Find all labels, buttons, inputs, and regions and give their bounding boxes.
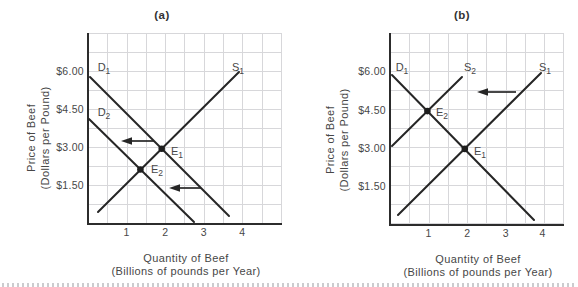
panel-b-s2-label: S2 bbox=[464, 61, 476, 76]
panel-a-d2-label: D2 bbox=[98, 106, 111, 121]
panel-a-y-axis-title-line1: Price of Beef bbox=[25, 103, 37, 172]
panel-b-x-tick-4: 4 bbox=[539, 227, 545, 239]
panel-b-d1-label: D1 bbox=[396, 61, 409, 76]
panel-a-x-tick-1: 1 bbox=[124, 226, 130, 238]
panel-a-y-tick-300: $3.00 bbox=[56, 141, 84, 153]
figure-two-panel-supply-demand: (a) $6.00 $4.50 $3.00 $1.50 1 2 3 4 Pric… bbox=[0, 0, 578, 287]
panel-b: (b) $6.00 $4.50 $3.00 $1.50 1 2 3 4 Pric… bbox=[324, 9, 553, 278]
panel-b-y-tick-450: $4.50 bbox=[358, 104, 386, 116]
panel-b-left-shift-arrow bbox=[477, 88, 516, 96]
panel-b-equilibrium-dot-e1 bbox=[462, 146, 469, 153]
panel-b-equilibrium-dot-e2 bbox=[424, 108, 431, 115]
panel-b-x-axis-title-line2: (Billions of pounds per Year) bbox=[403, 266, 552, 278]
panel-b-y-tick-600: $6.00 bbox=[358, 65, 386, 77]
panel-b-y-axis-title-line2: (Dollars per Pound) bbox=[338, 89, 350, 192]
panel-b-e1-label: E1 bbox=[474, 145, 486, 160]
panel-a-equilibrium-dot-e1 bbox=[158, 145, 165, 152]
panel-b-title: (b) bbox=[454, 9, 470, 21]
panel-a-x-axis-title-line2: (Billions of pounds per Year) bbox=[111, 265, 260, 277]
panel-b-y-axis-title-line1: Price of Beef bbox=[324, 105, 336, 174]
panel-a-left-shift-arrow-lower bbox=[169, 184, 201, 192]
panel-b-y-tick-300: $3.00 bbox=[358, 142, 386, 154]
panel-a: (a) $6.00 $4.50 $3.00 $1.50 1 2 3 4 Pric… bbox=[25, 9, 261, 277]
panel-b-y-tick-150: $1.50 bbox=[358, 180, 386, 192]
panel-a-y-tick-450: $4.50 bbox=[56, 103, 84, 115]
panel-a-d1-label: D1 bbox=[98, 61, 111, 76]
panel-a-left-shift-arrow-upper bbox=[121, 137, 154, 145]
panel-a-title: (a) bbox=[154, 9, 170, 21]
figure-canvas: (a) $6.00 $4.50 $3.00 $1.50 1 2 3 4 Pric… bbox=[0, 0, 578, 287]
panel-a-y-tick-600: $6.00 bbox=[56, 65, 84, 77]
panel-a-x-tick-3: 3 bbox=[201, 226, 207, 238]
panel-b-e2-label: E2 bbox=[436, 106, 448, 121]
panel-a-x-tick-4: 4 bbox=[239, 226, 245, 238]
panel-b-x-tick-2: 2 bbox=[464, 227, 470, 239]
panel-b-x-axis-title-line1: Quantity of Beef bbox=[435, 253, 521, 265]
panel-a-e2-label: E2 bbox=[151, 163, 163, 178]
panel-b-supply-curve-s1 bbox=[398, 73, 541, 215]
panel-a-y-tick-150: $1.50 bbox=[56, 179, 84, 191]
panel-a-e1-label: E1 bbox=[171, 145, 183, 160]
panel-a-x-tick-2: 2 bbox=[162, 226, 168, 238]
panel-a-y-axis-title-line2: (Dollars per Pound) bbox=[39, 87, 51, 190]
panel-a-x-axis-title-line1: Quantity of Beef bbox=[143, 252, 229, 264]
panel-b-x-tick-1: 1 bbox=[426, 227, 432, 239]
panel-a-supply-curve-s1 bbox=[98, 72, 239, 212]
panel-a-equilibrium-dot-e2 bbox=[137, 166, 144, 173]
panel-b-x-tick-3: 3 bbox=[503, 227, 509, 239]
